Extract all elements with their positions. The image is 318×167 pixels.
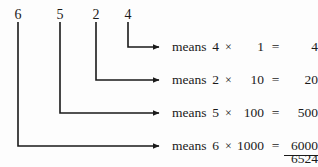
equals-sign-icon: =	[270, 39, 281, 55]
digit-ones: 4	[121, 8, 135, 22]
digit-thousands: 6	[11, 8, 25, 22]
means-label: means	[172, 138, 207, 154]
row-result: 500	[284, 105, 318, 121]
grand-total: 6524	[284, 151, 318, 167]
place-value-diagram: 6 5 2 4 means 4 × 1 = 4 means 2 × 10 = 2…	[0, 0, 318, 167]
row-factor: 2	[211, 72, 220, 88]
row-place-value: 100	[234, 105, 264, 121]
equals-sign-icon: =	[270, 105, 281, 121]
row-place-value: 1000	[234, 138, 264, 154]
row-factor: 6	[211, 138, 220, 154]
row-result: 4	[284, 39, 318, 55]
row-place-value: 1	[234, 39, 264, 55]
multiplication-sign-icon: ×	[223, 72, 234, 88]
means-label: means	[172, 72, 207, 88]
row-result: 20	[284, 72, 318, 88]
connector-ones	[128, 22, 159, 47]
connector-hundreds	[60, 22, 159, 113]
multiplication-sign-icon: ×	[223, 39, 234, 55]
row-factor: 4	[211, 39, 220, 55]
row-place-value: 10	[234, 72, 264, 88]
row-factor: 5	[211, 105, 220, 121]
equals-sign-icon: =	[270, 138, 281, 154]
multiplication-sign-icon: ×	[223, 105, 234, 121]
means-label: means	[172, 105, 207, 121]
equals-sign-icon: =	[270, 72, 281, 88]
digit-hundreds: 5	[53, 8, 67, 22]
multiplication-sign-icon: ×	[223, 138, 234, 154]
means-label: means	[172, 39, 207, 55]
digit-tens: 2	[89, 8, 103, 22]
connector-thousands	[18, 22, 159, 146]
